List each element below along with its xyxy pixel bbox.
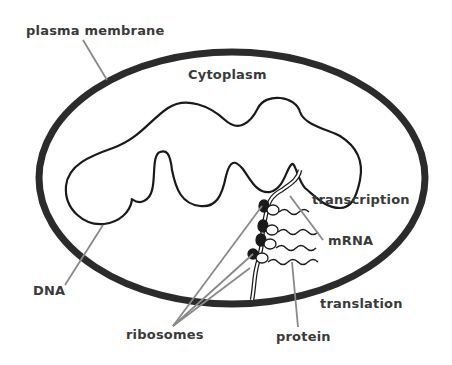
label-dna: DNA	[33, 283, 65, 298]
label-cytoplasm: Cytoplasm	[188, 67, 267, 82]
label-mrna: mRNA	[328, 233, 373, 248]
label-transcription: transcription	[312, 192, 410, 207]
ribosomes	[248, 200, 279, 263]
protein-chains	[268, 210, 318, 265]
plasma-membrane	[39, 52, 425, 304]
label-ribosomes: ribosomes	[126, 327, 204, 342]
label-plasma-membrane: plasma membrane	[26, 23, 165, 38]
label-translation: translation	[320, 296, 403, 311]
label-protein: protein	[276, 329, 331, 344]
